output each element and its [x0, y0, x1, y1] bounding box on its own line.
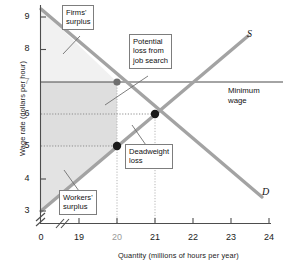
deadweight-loss-callout: Deadweight loss [125, 144, 173, 169]
deadweight-loss-label-line2: loss [129, 156, 169, 165]
marker-reservation-wage [113, 142, 121, 150]
potential-loss-label-line1: Potential [133, 37, 168, 46]
y-tick-4: 4 [20, 173, 34, 183]
workers-surplus-callout: Workers' surplus [59, 190, 97, 215]
x-axis-title: Quantity (millions of hours per year) [118, 251, 239, 260]
marker-quantity-demanded [113, 78, 120, 85]
y-tick-9: 9 [20, 11, 34, 21]
firms-surplus-label-line1: Firms' [66, 8, 90, 17]
supply-curve-label: S [247, 28, 252, 39]
x-tick-0: 0 [34, 232, 48, 242]
potential-loss-label-line2: loss from [133, 46, 168, 55]
potential-loss-label-line3: job search [133, 56, 168, 65]
deadweight-loss-label-line1: Deadweight [129, 147, 169, 156]
x-tick-20: 20 [107, 232, 127, 242]
minimum-wage-label: Minimum wage [228, 86, 260, 105]
x-axis-ticks [79, 218, 269, 224]
minimum-wage-label-line2: wage [228, 96, 260, 106]
firms-surplus-callout: Firms' surplus [62, 5, 94, 30]
y-tick-8: 8 [20, 43, 34, 53]
x-tick-19: 19 [69, 232, 89, 242]
workers-surplus-label-line2: surplus [63, 202, 93, 211]
x-tick-21: 21 [145, 232, 165, 242]
firms-surplus-label-line2: surplus [66, 17, 90, 26]
x-tick-24: 24 [259, 232, 279, 242]
potential-loss-callout: Potential loss from job search [129, 34, 172, 69]
x-tick-22: 22 [183, 232, 203, 242]
y-tick-5: 5 [20, 140, 34, 150]
y-tick-6: 6 [20, 108, 34, 118]
y-tick-7: 7 [20, 76, 34, 86]
minimum-wage-supply-demand-chart: Wage rate (dollars per hour) Quantity (m… [0, 0, 284, 269]
marker-equilibrium [151, 110, 159, 118]
demand-curve-label: D [262, 186, 269, 197]
y-tick-3: 3 [20, 205, 34, 215]
minimum-wage-label-line1: Minimum [228, 86, 260, 96]
workers-surplus-label-line1: Workers' [63, 193, 93, 202]
x-tick-23: 23 [221, 232, 241, 242]
